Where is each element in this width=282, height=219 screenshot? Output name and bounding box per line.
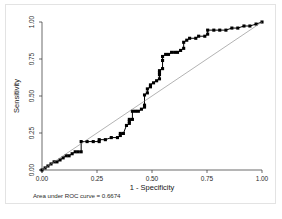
data-point-marker [125, 124, 128, 127]
data-series-layer [40, 20, 263, 171]
data-point-marker [80, 150, 83, 153]
x-tick-label: 0.25 [91, 175, 103, 182]
data-point-marker [149, 83, 152, 86]
y-tick-label: 0.25 [28, 127, 35, 139]
data-point-marker [212, 29, 215, 32]
x-tick-label: 0.50 [146, 175, 158, 182]
data-point-marker [110, 136, 113, 139]
data-point-marker [143, 104, 146, 107]
data-point-marker [164, 53, 167, 56]
data-point-marker [92, 140, 95, 143]
data-point-marker [206, 29, 209, 32]
y-tick-label: 1.00 [28, 16, 35, 28]
data-point-marker [185, 39, 188, 42]
data-point-marker [77, 150, 80, 153]
data-point-marker [146, 91, 149, 94]
data-point-marker [224, 29, 227, 32]
data-point-marker [176, 51, 179, 54]
data-point-marker [68, 154, 71, 157]
data-point-marker [74, 150, 77, 153]
x-tick-label: 0.00 [36, 175, 48, 182]
y-tick-label: 0.00 [28, 164, 35, 176]
data-point-marker [116, 136, 119, 139]
data-point-marker [230, 27, 233, 30]
data-point-marker [158, 77, 161, 80]
data-point-marker [173, 51, 176, 54]
data-point-marker [98, 138, 101, 141]
data-point-marker [236, 27, 239, 30]
data-point-marker [194, 37, 197, 40]
y-tick-label: 0.50 [28, 90, 35, 102]
data-point-marker [242, 24, 245, 27]
data-point-marker [152, 81, 155, 84]
roc-figure: 0.000.250.500.751.00 0.000.250.500.751.0… [0, 0, 282, 219]
data-point-marker [167, 53, 170, 56]
data-point-marker [161, 67, 164, 70]
data-point-marker [197, 35, 200, 38]
data-point-marker [218, 29, 221, 32]
data-point-marker [71, 152, 74, 155]
x-axis-title: 1 - Specificity [130, 183, 175, 192]
data-point-marker [134, 110, 137, 113]
y-tick-label: 0.75 [28, 53, 35, 65]
data-point-marker [140, 108, 143, 111]
y-axis-title: Sensitivity [12, 79, 21, 113]
x-tick-label: 0.75 [201, 175, 213, 182]
data-point-marker [206, 33, 209, 36]
x-tick-label: 1.00 [256, 175, 268, 182]
data-point-marker [146, 87, 149, 90]
data-point-marker [182, 41, 185, 44]
data-point-marker [104, 138, 107, 141]
data-point-marker [179, 49, 182, 52]
data-point-marker [128, 118, 131, 121]
data-point-marker [203, 35, 206, 38]
data-point-marker [137, 110, 140, 113]
data-point-marker [122, 132, 125, 135]
series-line [42, 22, 262, 170]
data-point-marker [248, 24, 251, 27]
data-point-marker [188, 37, 191, 40]
data-point-marker [158, 69, 161, 72]
data-point-marker [131, 118, 134, 121]
data-point-marker [143, 93, 146, 96]
data-point-marker [170, 51, 173, 54]
data-point-marker [161, 59, 164, 62]
data-point-marker [182, 47, 185, 50]
data-point-marker [161, 55, 164, 58]
data-point-marker [119, 132, 122, 135]
auc-annotation: Area under ROC curve = 0.6674 [33, 192, 120, 199]
data-point-marker [155, 79, 158, 82]
